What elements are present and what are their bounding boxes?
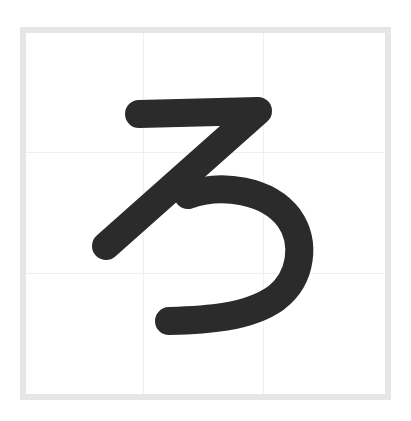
frame-background: [23, 30, 388, 397]
character-canvas: [0, 0, 411, 421]
character-practice-card: ろ: [0, 0, 411, 421]
